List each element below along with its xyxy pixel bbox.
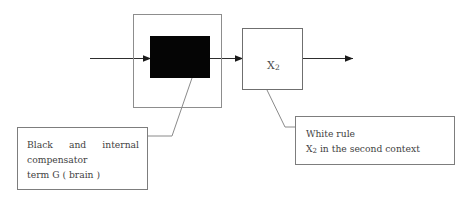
right-caption-line-1: White rule	[306, 126, 446, 141]
white-block-label: X2	[243, 59, 304, 72]
white-rule-block: X2	[242, 28, 303, 90]
left-caption-line-1: Black and internal	[27, 137, 139, 152]
left-caption-box: Black and internal compensator term G ( …	[17, 127, 148, 190]
right-caption-text: in the second context	[317, 143, 420, 154]
diagram-canvas: X2 Black and internal compensator term G…	[0, 0, 468, 199]
black-filled-block	[150, 36, 210, 78]
left-caption-line-3: term G ( brain )	[27, 167, 139, 182]
right-leader-line	[267, 90, 295, 127]
right-caption-box: White rule X2 in the second context	[295, 116, 455, 165]
white-block-label-base: X	[267, 59, 275, 72]
white-block-label-subscript: 2	[275, 63, 280, 72]
right-caption-line-2: X2 in the second context	[306, 141, 446, 159]
left-caption-line-2: compensator	[27, 152, 139, 167]
